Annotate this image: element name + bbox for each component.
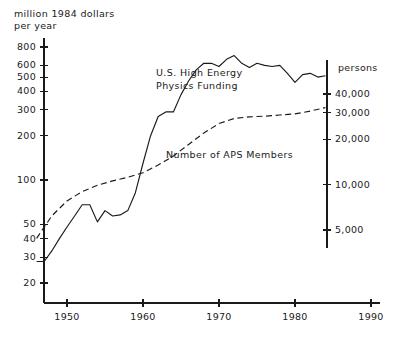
x-tick-label-1980: 1980 <box>269 311 321 322</box>
left-tick-label-400: 400 <box>0 85 36 96</box>
left-tick-label-100: 100 <box>0 174 36 185</box>
right-tick-label-10000: 10,000 <box>335 179 370 190</box>
chart-plot-area <box>0 0 396 344</box>
series-line-members <box>37 108 326 239</box>
right-tick-label-5000: 5,000 <box>335 224 364 235</box>
right-tick-label-30000: 30,000 <box>335 107 370 118</box>
left-tick-label-800: 800 <box>0 41 36 52</box>
x-tick-label-1960: 1960 <box>117 311 169 322</box>
x-tick-label-1970: 1970 <box>193 311 245 322</box>
chart-figure: million 1984 dollars per year persons U.… <box>0 0 396 344</box>
right-tick-label-20000: 20,000 <box>335 133 370 144</box>
right-tick-label-40000: 40,000 <box>335 88 370 99</box>
left-tick-label-500: 500 <box>0 71 36 82</box>
left-tick-label-20: 20 <box>0 277 36 288</box>
left-tick-label-200: 200 <box>0 130 36 141</box>
x-tick-label-1950: 1950 <box>41 311 93 322</box>
series-line-funding <box>37 56 326 262</box>
left-tick-label-600: 600 <box>0 59 36 70</box>
chart-axes <box>44 38 380 303</box>
left-tick-label-40: 40 <box>0 233 36 244</box>
left-tick-label-50: 50 <box>0 218 36 229</box>
left-tick-label-300: 300 <box>0 104 36 115</box>
left-tick-label-30: 30 <box>0 251 36 262</box>
x-tick-label-1990: 1990 <box>345 311 396 322</box>
